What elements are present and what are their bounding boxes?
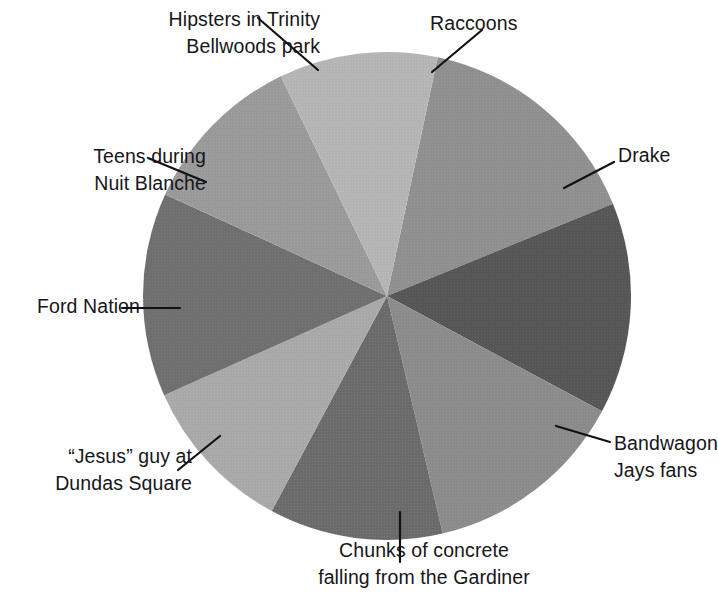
- slice-label-bandwagon-line2: Jays fans: [614, 459, 697, 481]
- slice-label-chunks-line2: falling from the Gardiner: [318, 566, 530, 588]
- slice-label-bandwagon-jays-fans: BandwagonJays fans: [614, 430, 712, 484]
- slice-label-jesus-guy: “Jesus” guy atDundas Square: [6, 443, 192, 497]
- slice-label-teens: Teens duringNuit Blanche: [10, 143, 206, 197]
- slice-label-teens-line2: Nuit Blanche: [94, 172, 206, 194]
- slice-label-raccoons: Raccoons: [430, 10, 630, 37]
- slice-label-hipsters: Hipsters in TrinityBellwoods park: [88, 6, 320, 60]
- slice-label-chunks-line1: Chunks of concrete: [339, 539, 509, 561]
- slice-label-ford-nation: Ford Nation: [4, 293, 140, 320]
- slice-label-hipsters-line1: Hipsters in Trinity: [169, 8, 320, 30]
- slice-label-drake-line1: Drake: [618, 144, 671, 166]
- slice-label-hipsters-line2: Bellwoods park: [186, 35, 320, 57]
- slice-label-bandwagon-line1: Bandwagon: [614, 432, 718, 454]
- pie-slice-group: [143, 52, 631, 540]
- slice-label-jesus-guy-line2: Dundas Square: [55, 472, 192, 494]
- slice-label-jesus-guy-line1: “Jesus” guy at: [68, 445, 192, 467]
- slice-label-drake: Drake: [618, 142, 710, 169]
- slice-label-raccoons-line1: Raccoons: [430, 12, 518, 34]
- slice-label-teens-line1: Teens during: [93, 145, 206, 167]
- slice-label-chunks-of-concrete: Chunks of concretefalling from the Gardi…: [274, 537, 574, 591]
- slice-label-ford-nation-line1: Ford Nation: [37, 295, 140, 317]
